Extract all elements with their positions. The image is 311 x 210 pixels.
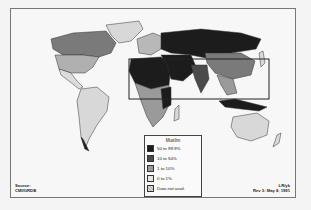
legend-item: 10 to 50% [145, 153, 201, 163]
region-europe [137, 33, 163, 55]
credit-note: LR/yk Rev 3: May 8, 1991 [253, 183, 290, 193]
legend-label: 0 to 1% [157, 176, 172, 181]
legend-item: 0 to 1% [145, 173, 201, 183]
legend-item: 1 to 10% [145, 163, 201, 173]
source-value: CMI/GRDB [15, 188, 36, 193]
credit-revision: Rev 3: May 8, 1991 [253, 188, 290, 193]
legend-swatch-hatched [147, 185, 154, 192]
region-madagascar [174, 105, 179, 121]
region-australia [231, 113, 269, 141]
region-india [191, 65, 209, 93]
region-china [205, 53, 255, 79]
legend-swatch [147, 165, 154, 172]
legend-swatch [147, 145, 154, 152]
legend-item: 50 to 99.9% [145, 143, 201, 153]
legend-label: 50 to 99.9% [157, 146, 180, 151]
region-indonesia [219, 99, 267, 111]
region-canada [51, 31, 116, 57]
legend-label: Data not avail. [157, 186, 185, 191]
legend-swatch [147, 155, 154, 162]
legend: Muslim 50 to 99.9% 10 to 50% 1 to 10% 0 … [144, 135, 202, 197]
region-east-africa [161, 87, 171, 109]
legend-swatch [147, 175, 154, 182]
map-frame: Muslim 50 to 99.9% 10 to 50% 1 to 10% 0 … [10, 8, 296, 198]
legend-label: 10 to 50% [157, 156, 177, 161]
region-new-zealand [273, 133, 281, 147]
legend-item: Data not avail. [145, 183, 201, 193]
legend-label: 1 to 10% [157, 166, 174, 171]
source-note: Source: CMI/GRDB [15, 183, 36, 193]
